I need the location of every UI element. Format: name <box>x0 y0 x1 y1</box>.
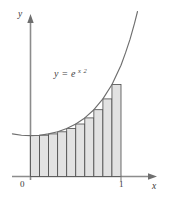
riemann-rectangle <box>112 85 121 177</box>
x-tick-label-one: 1 <box>119 180 124 189</box>
riemann-rectangle <box>85 118 94 177</box>
arrow-right-icon <box>148 173 157 179</box>
riemann-rectangle <box>103 99 112 177</box>
curve-label-exponent-var: x <box>78 67 81 74</box>
arrow-up-icon <box>27 14 33 23</box>
x-axis-label: x <box>152 182 156 192</box>
riemann-rectangle <box>76 124 85 177</box>
curve-label-base: e <box>71 68 75 79</box>
riemann-rectangle <box>67 129 76 177</box>
curve-label-equals: = <box>61 68 69 79</box>
riemann-rectangle <box>49 134 58 177</box>
curve-label-exponent-power: 2 <box>83 67 86 74</box>
riemann-rectangle <box>94 110 103 177</box>
origin-label: 0 <box>20 180 25 189</box>
y-axis-label: y <box>18 10 22 20</box>
riemann-rectangle <box>58 132 67 177</box>
riemann-sum-plot <box>0 0 169 201</box>
curve-label-lhs: y <box>54 68 58 79</box>
riemann-rectangles-group <box>31 85 122 177</box>
figure-container: y x 0 1 y = e x 2 <box>0 0 169 201</box>
curve-equation-label: y = e x 2 <box>54 68 87 79</box>
riemann-rectangle <box>40 135 49 176</box>
riemann-rectangle <box>31 136 40 177</box>
